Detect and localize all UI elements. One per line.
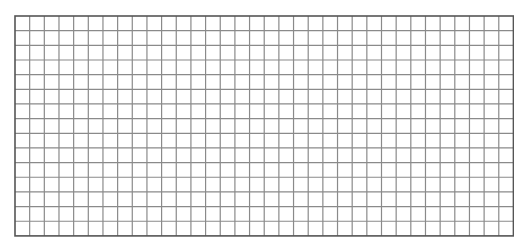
grid-paper — [14, 15, 514, 237]
